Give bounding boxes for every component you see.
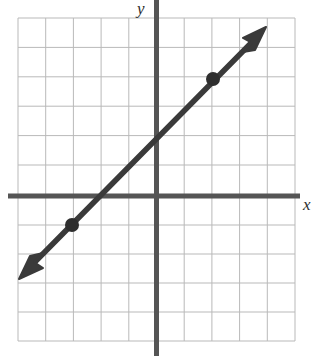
graph-canvas: [0, 0, 319, 356]
y-axis-label: y: [137, 0, 145, 17]
x-axis-label: x: [303, 196, 311, 213]
arrowhead-upper-right-icon: [243, 27, 266, 52]
line-segment: [28, 37, 257, 269]
point-upper-right: [206, 72, 220, 86]
coordinate-plane-figure: y x: [0, 0, 319, 356]
arrowhead-lower-left-icon: [19, 253, 43, 279]
plotted-line: [19, 27, 266, 279]
point-lower-left: [65, 218, 79, 232]
axes: [8, 0, 300, 356]
